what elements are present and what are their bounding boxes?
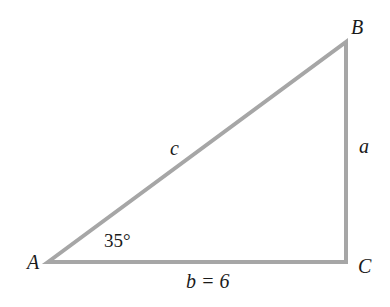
vertex-label-b: B bbox=[351, 17, 363, 37]
side-label-c: c bbox=[170, 138, 179, 158]
vertex-label-a: A bbox=[27, 252, 39, 272]
triangle-outline bbox=[48, 42, 346, 262]
angle-label-a: 35° bbox=[104, 231, 131, 250]
side-label-b: b = 6 bbox=[186, 271, 230, 291]
vertex-label-c: C bbox=[358, 256, 371, 276]
triangle-diagram: A B C a c b = 6 35° bbox=[0, 0, 390, 307]
side-label-a: a bbox=[359, 136, 369, 156]
triangle-shape bbox=[0, 0, 390, 307]
